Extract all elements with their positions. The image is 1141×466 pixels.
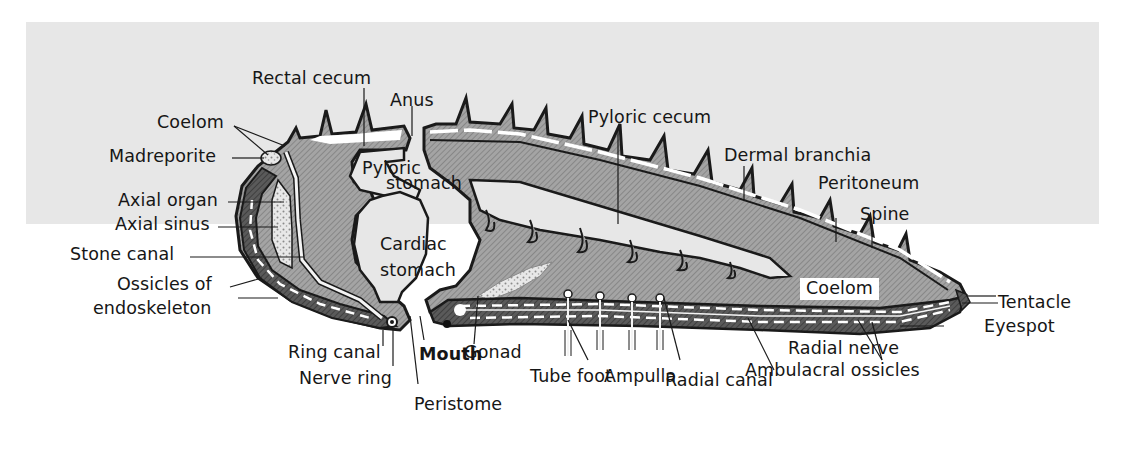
label-cardiac-stomach-line1: Cardiac bbox=[380, 236, 447, 254]
label-coelom-arm: Coelom bbox=[800, 278, 879, 300]
label-axial-organ: Axial organ bbox=[118, 192, 218, 210]
label-axial-sinus: Axial sinus bbox=[115, 216, 210, 234]
label-radial-nerve: Radial nerve bbox=[788, 340, 899, 358]
label-ring-canal: Ring canal bbox=[288, 344, 381, 362]
label-anus: Anus bbox=[390, 92, 434, 110]
label-madreporite: Madreporite bbox=[109, 148, 216, 166]
label-coelom-disc: Coelom bbox=[157, 114, 224, 132]
label-eyespot: Eyespot bbox=[984, 318, 1055, 336]
label-gonad: Gonad bbox=[464, 344, 522, 362]
label-ossicles-line1: Ossicles of bbox=[117, 276, 212, 294]
label-cardiac-stomach-line2: stomach bbox=[380, 262, 456, 280]
label-nerve-ring: Nerve ring bbox=[299, 370, 392, 388]
label-pyloric-stomach-line2: stomach bbox=[386, 175, 462, 193]
label-peristome: Peristome bbox=[414, 396, 502, 414]
label-stone-canal: Stone canal bbox=[70, 246, 174, 264]
label-ambulacral-ossicles: Ambulacral ossicles bbox=[745, 362, 920, 380]
label-rectal-cecum: Rectal cecum bbox=[252, 70, 371, 88]
label-tube-foot: Tube foot bbox=[530, 368, 612, 386]
label-spine: Spine bbox=[860, 206, 909, 224]
label-dermal-branchia: Dermal branchia bbox=[724, 147, 871, 165]
arm bbox=[424, 98, 970, 356]
label-tentacle: Tentacle bbox=[998, 294, 1071, 312]
label-pyloric-cecum: Pyloric cecum bbox=[588, 109, 711, 127]
label-peritoneum: Peritoneum bbox=[818, 175, 919, 193]
label-ossicles-line2: endoskeleton bbox=[93, 300, 212, 318]
